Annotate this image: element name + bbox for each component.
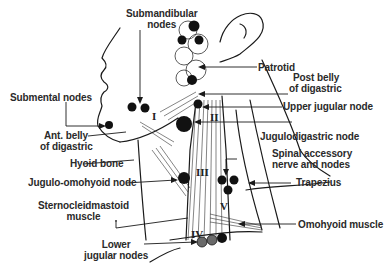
parotid-node [178,36,187,45]
label-submandibular-nodes: Submandibular nodes [126,8,197,30]
label-line: nodes [126,19,197,30]
jugulodigastric-node [176,116,192,132]
label-line: Lower [84,239,148,250]
region-I: I [152,110,156,122]
submental-node [105,121,113,129]
label-hyoid-bone: Hyoid bone [70,158,123,169]
spinal-accessory-node [224,186,233,195]
label-line: of digastric [40,141,88,152]
spinal-accessory-node [230,176,239,185]
label-upper-jugular-node: Upper jugular node [283,101,373,112]
region-V: V [220,200,228,212]
ear [220,13,263,62]
label-lower-jugular-nodes: Lower jugular nodes [84,239,148,261]
label-line: muscle [38,211,129,222]
jaw-line [120,118,178,142]
label-jugulodigastric-node: Jugulodigastric node [260,131,359,142]
label-line: Submandibular [126,8,197,19]
label-post-belly-digastric: Post belly of digastric [289,72,342,94]
region-III: III [196,166,209,178]
label-line: jugular nodes [84,250,148,261]
label-line: Sternocleidmastoid [38,200,129,211]
label-line: of digastric [289,83,342,94]
label-line: nerve and nodes [272,159,352,170]
label-trapezius: Trapezius [296,177,341,188]
parotid-node [187,75,197,85]
region-IV: IV [191,228,203,240]
jugulo-omohyoid-node [178,172,190,184]
label-line: Spinal accessory [272,148,352,159]
label-submental-nodes: Submental nodes [10,92,92,103]
label-spinal-accessory: Spinal accessory nerve and nodes [272,148,352,170]
label-omohyoid-muscle: Omohyoid muscle [298,219,383,230]
neck-lymph-node-diagram: Submandibular nodes Patrotid Post belly … [0,0,387,279]
submandibular-node [141,104,150,113]
label-sternocleidomastoid: Sternocleidmastoid muscle [38,200,129,222]
label-jugulo-omohyoid-node: Jugulo-omohyoid node [28,177,137,188]
parotid-node [195,36,204,45]
spinal-accessory-node [218,176,227,185]
lower-jugular-node [207,235,217,245]
label-ant-belly-digastric: Ant. belly of digastric [40,130,88,152]
label-line: Post belly [289,72,342,83]
label-line: Ant. belly [40,130,88,141]
upper-jugular-node [194,100,203,109]
lower-jugular-node [217,233,227,243]
region-II: II [210,111,219,123]
submandibular-node [128,103,137,112]
